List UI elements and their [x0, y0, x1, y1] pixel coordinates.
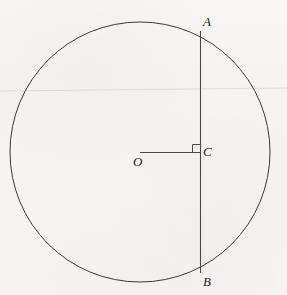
point-label-o: O [133, 155, 142, 168]
scan-artifact-line [0, 88, 287, 91]
diagram-canvas: A B C O [0, 0, 287, 295]
point-label-b: B [203, 275, 211, 288]
right-angle-icon [193, 145, 201, 153]
point-label-a: A [203, 15, 211, 28]
point-label-c: C [203, 145, 212, 158]
geometry-figure [0, 0, 287, 295]
